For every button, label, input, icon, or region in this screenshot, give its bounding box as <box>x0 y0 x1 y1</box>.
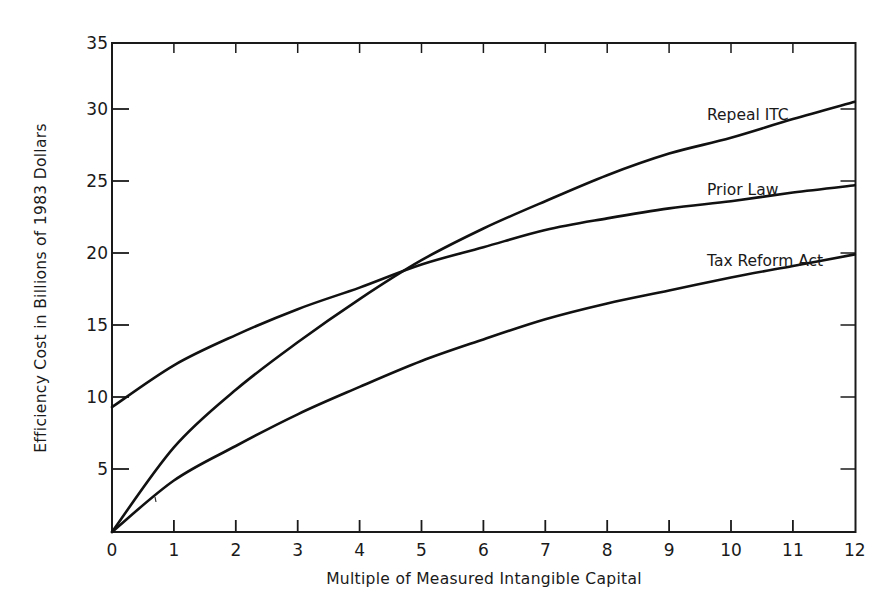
series-line-tax-reform-act <box>112 254 855 532</box>
series-labels: Repeal ITCPrior LawTax Reform Act <box>706 106 823 270</box>
x-tick-label: 4 <box>354 540 365 560</box>
x-tick-label: 10 <box>720 540 742 560</box>
x-tick-label: 12 <box>844 540 866 560</box>
y-tick-label: 15 <box>86 315 108 335</box>
x-tick-label: 8 <box>602 540 613 560</box>
x-tick-label: 5 <box>416 540 427 560</box>
y-tick-label: 30 <box>86 99 108 119</box>
x-tick-label: 0 <box>107 540 118 560</box>
x-tick-label: 2 <box>230 540 241 560</box>
y-axis-title: Efficiency Cost in Billions of 1983 Doll… <box>32 123 50 453</box>
y-tick-label: 35 <box>86 33 108 53</box>
series-label-repeal-itc: Repeal ITC <box>707 106 789 124</box>
x-axis-title: Multiple of Measured Intangible Capital <box>326 570 642 588</box>
stray-mark <box>155 497 156 502</box>
y-tick-label: 5 <box>97 459 108 479</box>
series-line-prior-law <box>112 185 855 407</box>
x-tick-label: 3 <box>292 540 303 560</box>
x-tick-label: 1 <box>168 540 179 560</box>
series-lines <box>112 102 855 532</box>
y-tick-label: 20 <box>86 243 108 263</box>
y-tick-label: 25 <box>86 171 108 191</box>
series-label-tax-reform-act: Tax Reform Act <box>706 252 823 270</box>
x-tick-label: 11 <box>782 540 804 560</box>
series-label-prior-law: Prior Law <box>707 181 779 199</box>
x-tick-label: 9 <box>664 540 675 560</box>
series-line-repeal-itc <box>112 102 855 532</box>
x-tick-label: 7 <box>540 540 551 560</box>
y-tick-label: 10 <box>86 387 108 407</box>
x-tick-label: 6 <box>478 540 489 560</box>
line-chart: 0123456789101112 5101520253035 Repeal IT… <box>0 0 894 612</box>
